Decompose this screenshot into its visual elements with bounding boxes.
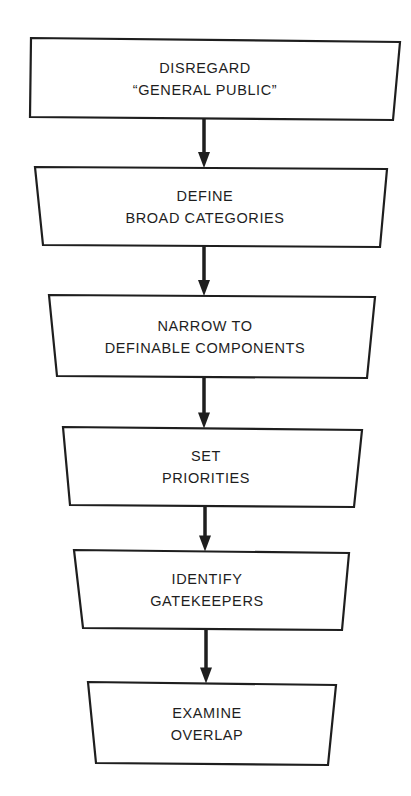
step-label-line: NARROW TO — [157, 318, 252, 334]
step-label-line: DISREGARD — [159, 60, 251, 76]
flow-step-set-priorities: SETPRIORITIES — [63, 427, 362, 507]
step-label-line: “GENERAL PUBLIC” — [133, 82, 277, 98]
flow-step-define-broad-categories: DEFINEBROAD CATEGORIES — [35, 167, 387, 247]
flowchart: DISREGARD“GENERAL PUBLIC”DEFINEBROAD CAT… — [0, 0, 411, 796]
arrow-head-icon — [198, 152, 210, 168]
arrow-head-icon — [198, 280, 210, 296]
arrow-identify-gatekeepers-to-examine-overlap — [200, 629, 212, 684]
step-label-line: IDENTIFY — [172, 571, 243, 587]
arrow-head-icon — [200, 668, 212, 684]
arrow-head-icon — [198, 413, 210, 429]
step-label-line: OVERLAP — [171, 727, 244, 743]
flow-step-examine-overlap: EXAMINEOVERLAP — [88, 682, 336, 765]
step-box — [88, 682, 336, 765]
step-box — [74, 550, 349, 630]
step-label-line: SET — [191, 448, 221, 464]
arrow-define-broad-categories-to-narrow-to-definable-components — [198, 246, 210, 296]
step-box — [35, 167, 387, 247]
step-label-line: DEFINABLE COMPONENTS — [105, 340, 306, 356]
step-label-line: BROAD CATEGORIES — [125, 210, 284, 226]
arrow-disregard-general-public-to-define-broad-categories — [198, 119, 210, 169]
arrow-narrow-to-definable-components-to-set-priorities — [198, 377, 210, 429]
arrow-head-icon — [199, 536, 211, 552]
step-label-line: DEFINE — [177, 188, 234, 204]
step-box — [30, 38, 400, 120]
step-label-line: GATEKEEPERS — [150, 593, 264, 609]
step-box — [63, 427, 362, 507]
step-label-line: EXAMINE — [172, 705, 241, 721]
step-box — [49, 295, 375, 378]
flow-step-identify-gatekeepers: IDENTIFYGATEKEEPERS — [74, 550, 349, 630]
flow-step-disregard-general-public: DISREGARD“GENERAL PUBLIC” — [30, 38, 400, 120]
arrow-set-priorities-to-identify-gatekeepers — [199, 506, 211, 552]
step-label-line: PRIORITIES — [162, 470, 250, 486]
flow-step-narrow-to-definable-components: NARROW TODEFINABLE COMPONENTS — [49, 295, 375, 378]
boxes-layer: DISREGARD“GENERAL PUBLIC”DEFINEBROAD CAT… — [30, 38, 400, 765]
